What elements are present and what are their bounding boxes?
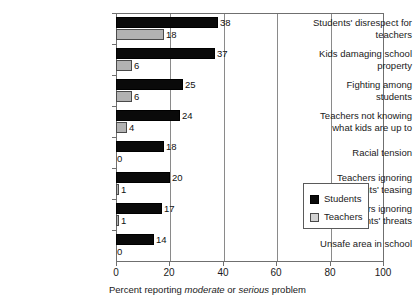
- category-label: Teachers not knowing what kids are up to: [301, 110, 415, 133]
- category-label: Kids damaging school property: [301, 48, 415, 71]
- bar-students: [116, 17, 218, 28]
- y-tick: [112, 230, 116, 231]
- bar-value-teachers: 6: [134, 92, 139, 102]
- x-tick-label: 100: [363, 267, 403, 279]
- category-label-line: students: [301, 91, 412, 103]
- bar-value-students: 20: [172, 173, 183, 183]
- legend-swatch-students-icon: [310, 195, 319, 204]
- x-tick: [169, 262, 170, 266]
- bar-value-teachers: 6: [134, 61, 139, 71]
- x-tick-label: 0: [96, 267, 136, 279]
- x-tick-label: 80: [310, 267, 350, 279]
- x-tick-label: 60: [256, 267, 296, 279]
- bar-students: [116, 79, 183, 90]
- bar-students: [116, 141, 164, 152]
- y-tick: [112, 199, 116, 200]
- x-tick: [223, 262, 224, 266]
- x-axis-title-part-italic: moderate: [185, 284, 225, 295]
- category-label-line: Students' disrespect for: [301, 17, 412, 29]
- y-tick: [112, 44, 116, 45]
- y-tick: [112, 168, 116, 169]
- x-axis-title-part: or: [225, 284, 239, 295]
- category-label-line: Unsafe area in school: [301, 238, 412, 250]
- category-label-line: property: [301, 60, 412, 72]
- category-label-line: Kids damaging school: [301, 48, 412, 60]
- bar-students: [116, 172, 170, 183]
- x-tick-label: 40: [203, 267, 243, 279]
- x-axis-title-part: problem: [269, 284, 306, 295]
- legend-label-students: Students: [324, 194, 362, 204]
- x-axis-title: Percent reporting moderate or serious pr…: [0, 284, 415, 295]
- category-label: Students' disrespect for teachers: [301, 17, 415, 40]
- y-tick: [112, 13, 116, 14]
- bar-value-teachers: 0: [117, 247, 122, 257]
- bar-teachers: [116, 60, 132, 71]
- bar-value-teachers: 1: [121, 185, 126, 195]
- bar-value-teachers: 1: [121, 216, 126, 226]
- category-label-line: what kids are up to: [301, 122, 412, 134]
- legend-swatch-teachers-icon: [310, 213, 319, 222]
- x-tick: [116, 262, 117, 266]
- chart-legend: Students Teachers: [303, 183, 369, 229]
- y-tick: [112, 137, 116, 138]
- x-tick: [276, 262, 277, 266]
- bar-value-students: 25: [185, 80, 196, 90]
- x-tick-label: 20: [149, 267, 189, 279]
- legend-item-teachers: Teachers: [310, 211, 363, 223]
- category-label-line: Teachers ignoring: [301, 172, 412, 184]
- bar-teachers: [116, 184, 119, 195]
- bar-value-students: 37: [217, 49, 228, 59]
- category-label: Unsafe area in school: [301, 238, 415, 250]
- category-label-line: teachers: [301, 29, 412, 41]
- category-label-line: Fighting among: [301, 79, 412, 91]
- legend-label-teachers: Teachers: [324, 212, 363, 222]
- category-label: Fighting among students: [301, 79, 415, 102]
- bar-students: [116, 234, 154, 245]
- y-tick: [112, 106, 116, 107]
- x-tick: [383, 262, 384, 266]
- legend-item-students: Students: [310, 193, 362, 205]
- bar-value-students: 24: [182, 111, 193, 121]
- bar-students: [116, 110, 180, 121]
- x-tick: [330, 262, 331, 266]
- bar-chart: Students' disrespect for teachers Kids d…: [0, 0, 415, 306]
- bar-teachers: [116, 215, 119, 226]
- bar-value-students: 17: [164, 204, 175, 214]
- category-label: Racial tension: [301, 147, 415, 159]
- bar-students: [116, 48, 215, 59]
- bar-teachers: [116, 91, 132, 102]
- bar-value-students: 38: [220, 18, 231, 28]
- category-label-line: Racial tension: [301, 147, 412, 159]
- x-axis-title-part-italic: serious: [238, 284, 269, 295]
- bar-value-teachers: 4: [129, 123, 134, 133]
- bar-value-teachers: 0: [117, 154, 122, 164]
- x-axis-title-part: Percent reporting: [109, 284, 185, 295]
- category-label-line: Teachers not knowing: [301, 110, 412, 122]
- y-tick: [112, 75, 116, 76]
- bar-value-students: 14: [156, 235, 167, 245]
- bar-teachers: [116, 29, 164, 40]
- gridline-60: [277, 14, 278, 261]
- bar-teachers: [116, 122, 127, 133]
- bar-students: [116, 203, 162, 214]
- bar-value-teachers: 18: [166, 30, 177, 40]
- bar-value-students: 18: [166, 142, 177, 152]
